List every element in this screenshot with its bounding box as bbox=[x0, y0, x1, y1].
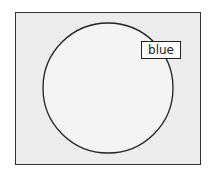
circle-shape bbox=[0, 0, 209, 173]
circle-label: blue bbox=[141, 41, 181, 59]
